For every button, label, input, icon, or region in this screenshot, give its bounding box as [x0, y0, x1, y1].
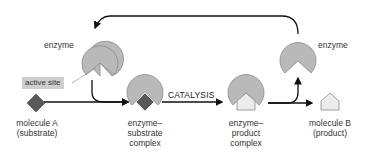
molecule-a-label: molecule A (substrate)	[12, 118, 62, 138]
ep-complex-line1: enzyme–	[221, 118, 271, 128]
ep-complex-line2: product	[221, 128, 271, 138]
molecule-a-name: molecule A	[12, 118, 62, 128]
es-complex-line3: complex	[120, 138, 170, 148]
enzyme-label-left: enzyme	[44, 40, 74, 50]
catalysis-label: CATALYSIS	[168, 90, 215, 100]
release-enzyme-arrow	[268, 78, 298, 103]
es-complex-line1: enzyme–	[120, 118, 170, 128]
recycle-arrow	[95, 16, 298, 34]
ep-complex-label: enzyme– product complex	[221, 118, 271, 148]
molecule-b-icon	[321, 93, 339, 110]
enzyme-catalysis-diagram: enzyme enzyme active site CATALYSIS mole…	[0, 0, 371, 157]
binding-arrow-down	[92, 80, 128, 102]
molecule-a-role: (substrate)	[12, 128, 62, 138]
molecule-b-role: (product)	[305, 128, 355, 138]
enzyme-right-icon	[280, 43, 316, 73]
molecule-a-icon	[27, 94, 45, 112]
molecule-b-name: molecule B	[305, 118, 355, 128]
ep-complex-line3: complex	[221, 138, 271, 148]
molecule-b-label: molecule B (product)	[305, 118, 355, 138]
es-complex-line2: substrate	[120, 128, 170, 138]
enzyme-label-right: enzyme	[318, 40, 348, 50]
es-complex-label: enzyme– substrate complex	[120, 118, 170, 148]
active-site-label: active site	[22, 77, 64, 89]
